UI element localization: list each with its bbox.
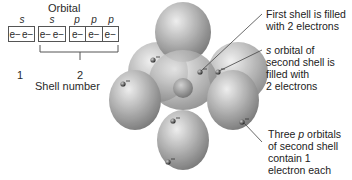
shell-number-1: 1 — [17, 69, 23, 81]
annotation-p-orbitals: Three p orbitals of second shell contain… — [268, 128, 341, 176]
shell-axis-label: Shell number — [35, 80, 100, 92]
shell-bracket — [40, 45, 118, 60]
annotation-first-shell: First shell is filled with 2 electrons — [266, 8, 346, 32]
annotation-s-orbital: s orbital of second shell is filled with… — [266, 44, 335, 92]
atom-model — [109, 2, 268, 170]
